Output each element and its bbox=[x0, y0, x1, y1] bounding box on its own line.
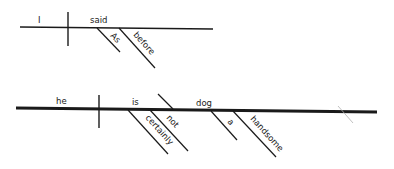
sentence-1: I said As before bbox=[20, 12, 213, 68]
verb-word: said bbox=[90, 15, 107, 25]
subject-word: I bbox=[38, 15, 41, 25]
faint-erased-mark bbox=[338, 106, 353, 123]
subject-word: he bbox=[56, 96, 67, 106]
sentence-diagram: I said As before he is dog certainly not… bbox=[0, 0, 394, 169]
modifier-word-before: before bbox=[132, 30, 158, 57]
baseline-1 bbox=[20, 27, 213, 29]
verb-word: is bbox=[132, 97, 139, 107]
sentence-2: he is dog certainly not a handsome bbox=[16, 94, 377, 157]
verb-complement-divider bbox=[158, 94, 173, 109]
modifier-word-not: not bbox=[165, 113, 182, 131]
modifier-word-a: a bbox=[226, 117, 237, 128]
predicate-nominative-word: dog bbox=[196, 98, 212, 108]
baseline-2 bbox=[16, 108, 377, 112]
